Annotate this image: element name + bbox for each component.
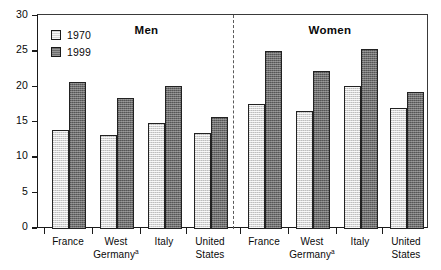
bar-1970-men-united-states bbox=[194, 133, 211, 229]
x-axis-label-line2: Germanya bbox=[77, 249, 155, 262]
x-tick-mark bbox=[240, 228, 241, 234]
y-tick-label: 15 bbox=[16, 114, 28, 127]
y-tick-label: 30 bbox=[16, 8, 28, 21]
bar-1970-women-italy bbox=[344, 86, 361, 229]
bar-group-men-west-germany bbox=[100, 15, 134, 229]
x-axis-label-line1: United bbox=[367, 236, 441, 249]
x-tick-mark bbox=[288, 228, 289, 234]
x-axis-label-line2: States bbox=[171, 249, 249, 262]
y-tick-label: 5 bbox=[22, 185, 28, 198]
x-axis-label-line2-text: Germany bbox=[289, 249, 331, 260]
bar-1970-men-italy bbox=[148, 123, 165, 229]
bar-1970-women-france bbox=[248, 104, 265, 229]
bar-group-men-united-states bbox=[194, 15, 228, 229]
bar-group-men-italy bbox=[148, 15, 182, 229]
x-axis: FranceWestGermanyaItalyUnitedStatesFranc… bbox=[37, 228, 428, 270]
y-axis: 302520151050 bbox=[0, 14, 37, 228]
bar-group-women-united-states bbox=[390, 15, 424, 229]
bar-group-women-west-germany bbox=[296, 15, 330, 229]
bar-group-women-italy bbox=[344, 15, 378, 229]
x-tick-mark bbox=[44, 228, 45, 234]
y-tick-label: 20 bbox=[16, 79, 28, 92]
x-axis-label-line2: States bbox=[367, 249, 441, 262]
panel-men: Men bbox=[38, 15, 233, 229]
x-axis-label-line2-text: Germany bbox=[93, 249, 135, 260]
y-tick-label: 0 bbox=[22, 220, 28, 233]
panel-divider bbox=[233, 15, 234, 229]
x-tick-mark bbox=[140, 228, 141, 234]
bar-1999-women-france bbox=[265, 51, 282, 229]
bar-1970-women-west-germany bbox=[296, 111, 313, 229]
bar-1999-women-united-states bbox=[407, 92, 424, 229]
bar-1970-women-united-states bbox=[390, 108, 407, 229]
bar-1999-women-west-germany bbox=[313, 71, 330, 229]
bar-1999-men-italy bbox=[165, 86, 182, 229]
x-axis-label-line2: Germanya bbox=[273, 249, 351, 262]
bar-1999-women-italy bbox=[361, 49, 378, 229]
x-tick-mark bbox=[186, 228, 187, 234]
x-axis-label-line2-text: States bbox=[392, 249, 421, 260]
bar-group-women-france bbox=[248, 15, 282, 229]
bar-chart-figure: 302520151050 1970 1999 Men Women bbox=[0, 0, 441, 270]
bar-1970-men-france bbox=[52, 130, 69, 229]
bar-1999-men-france bbox=[69, 82, 86, 229]
bar-group-men-france bbox=[52, 15, 86, 229]
x-tick-mark bbox=[92, 228, 93, 234]
x-axis-label-line2-text: States bbox=[196, 249, 225, 260]
bar-1970-men-west-germany bbox=[100, 135, 117, 229]
x-tick-mark bbox=[382, 228, 383, 234]
plot-area: 1970 1999 Men Women bbox=[37, 14, 428, 228]
panel-women: Women bbox=[234, 15, 428, 229]
x-tick-mark bbox=[336, 228, 337, 234]
x-axis-label: UnitedStates bbox=[367, 236, 441, 261]
bar-1999-men-united-states bbox=[211, 117, 228, 229]
y-tick-label: 25 bbox=[16, 43, 28, 56]
y-tick-label: 10 bbox=[16, 149, 28, 162]
bar-1999-men-west-germany bbox=[117, 98, 134, 229]
